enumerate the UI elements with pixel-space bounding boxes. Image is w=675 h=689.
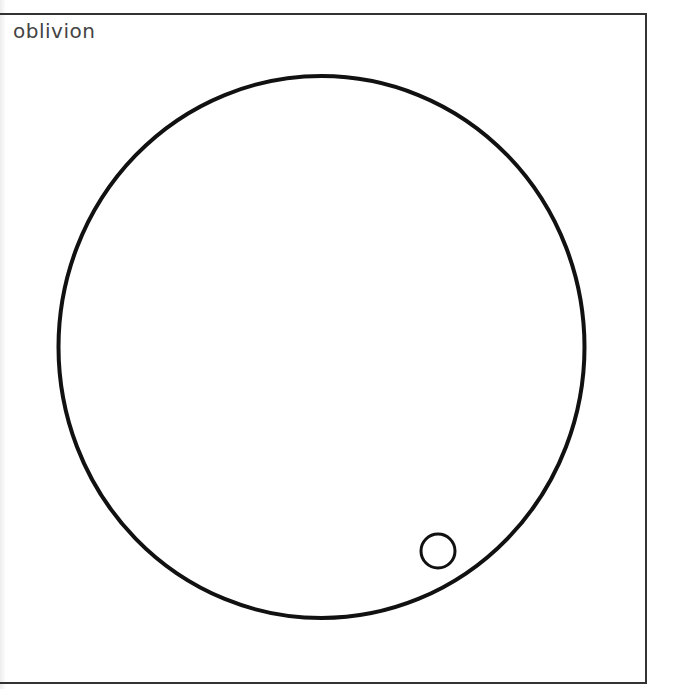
small-circle: [421, 534, 455, 568]
large-circle: [59, 76, 585, 618]
diagram-canvas: [0, 0, 675, 689]
